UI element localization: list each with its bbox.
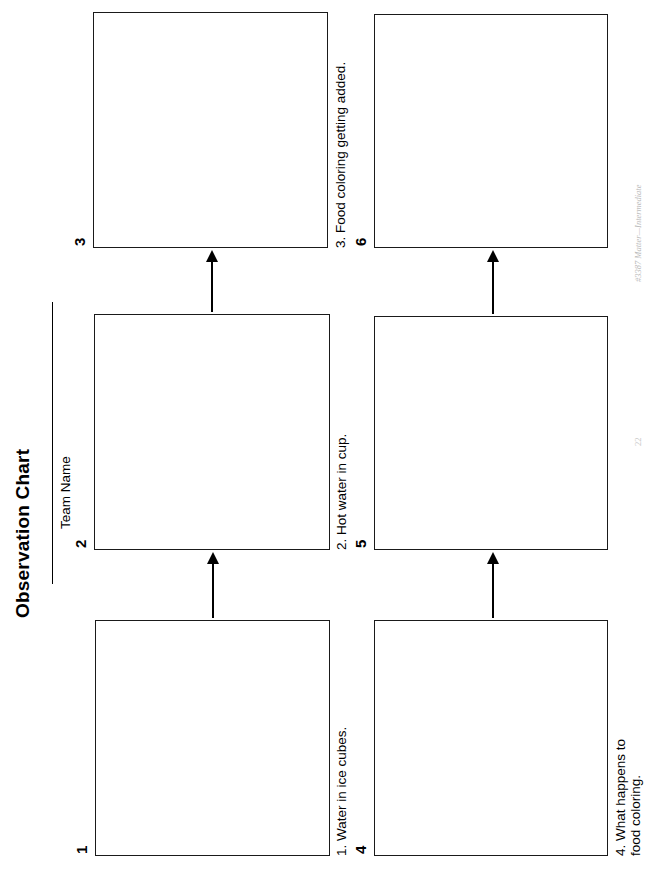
drawing-box-6[interactable] [374,14,608,248]
arrow-icon-2-to-3 [206,250,218,312]
arrow-shaft [492,562,494,618]
footer-page-number: 22 [633,438,643,447]
box-caption-4: 4. What happens to food coloring. [613,739,644,856]
box-number-1: 1 [73,846,90,854]
worksheet-page: Observation Chart Team Name 1 1. Water i… [0,0,649,874]
arrow-shaft [212,562,214,618]
arrow-shaft [211,260,213,312]
arrow-head [487,552,499,564]
arrow-head [206,250,218,262]
team-name-rule [52,302,53,584]
arrow-icon-4-to-5 [487,552,499,618]
footer-credit: #3387 Matter—Intermediate [633,185,643,283]
arrow-icon-1-to-2 [207,552,219,618]
box-caption-1: 1. Water in ice cubes. [334,727,349,856]
drawing-box-2[interactable] [94,314,330,550]
drawing-box-1[interactable] [95,620,330,856]
box-number-2: 2 [72,540,89,548]
drawing-box-4[interactable] [374,620,608,856]
drawing-box-3[interactable] [93,12,328,248]
page-title: Observation Chart [12,449,34,618]
box-caption-2: 2. Hot water in cup. [334,434,349,550]
arrow-head [487,250,499,262]
box-caption-3: 3. Food coloring getting added. [333,62,348,248]
box-number-3: 3 [71,238,88,246]
box-number-5: 5 [352,540,369,548]
team-name-label: Team Name [58,456,73,529]
arrow-head [207,552,219,564]
box-number-6: 6 [352,238,369,246]
box-number-4: 4 [352,846,369,854]
drawing-box-5[interactable] [374,316,608,550]
arrow-icon-5-to-6 [487,250,499,314]
arrow-shaft [492,260,494,314]
